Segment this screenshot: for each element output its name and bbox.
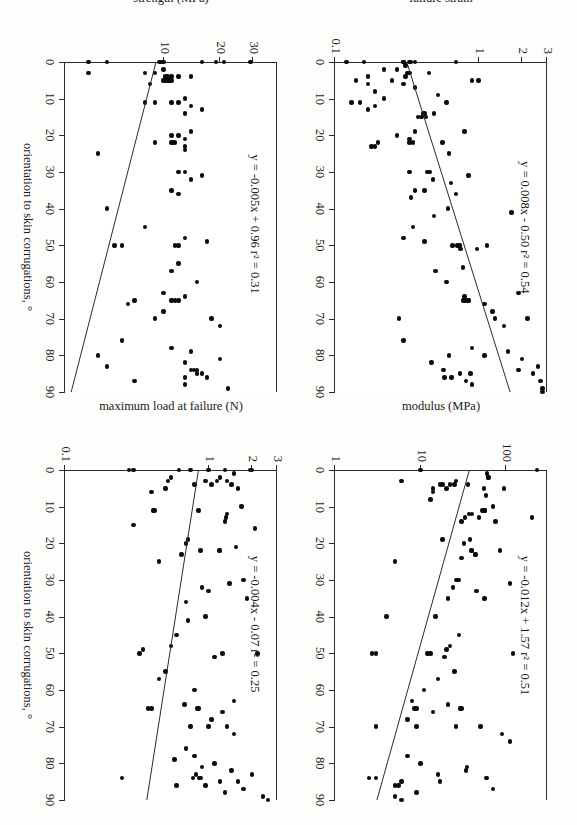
y-tick [64,465,65,470]
data-point [349,100,353,104]
data-point [131,523,135,527]
data-point [405,717,409,721]
data-point [169,269,173,273]
data-point [384,614,388,618]
data-point [447,353,451,357]
x-tick [329,392,334,393]
data-point [414,724,418,728]
data-point [195,280,199,284]
data-point [413,188,417,192]
y-tick [505,465,506,470]
x-tick-label: 40 [312,189,327,229]
data-point [458,706,462,710]
y-tick [276,465,277,470]
data-point [205,375,209,379]
x-axis-line [64,470,65,801]
data-point [120,243,124,247]
x-tick-label: 0 [42,450,57,490]
data-point [399,798,403,802]
data-point [161,309,165,313]
data-point [530,515,534,519]
data-point [473,552,477,556]
data-point [217,548,221,552]
figure-page: 01020304050607080900.1123y = 0.008x - 0.… [0,0,577,825]
data-point [183,375,187,379]
data-point [163,669,167,673]
data-point [366,74,370,78]
data-point [508,739,512,743]
data-point [452,669,456,673]
x-tick-label: 60 [312,670,327,710]
data-point [451,585,455,589]
data-point [153,100,157,104]
data-point [161,78,165,82]
x-axis-title: orientation to skin corrugations, ° [20,540,35,730]
y-axis-title: failure strain [409,0,473,6]
data-point [393,783,397,787]
x-tick [59,319,64,320]
data-point [220,651,224,655]
x-tick [329,800,334,801]
y-tick-label: 0.1 [58,418,73,462]
data-point [470,382,474,386]
y-tick-label: 1 [202,418,217,462]
data-point [491,504,495,508]
data-point [450,243,454,247]
x-axis-line [64,62,65,393]
data-point [227,581,231,585]
data-point [189,129,193,133]
data-point [266,798,270,802]
data-point [462,541,466,545]
data-point [480,508,484,512]
data-point [407,170,411,174]
data-point [182,702,186,706]
data-point [161,291,165,295]
x-tick [59,763,64,764]
data-point [206,589,210,593]
data-point [189,349,193,353]
data-point [132,379,136,383]
x-tick-label: 40 [312,597,327,637]
x-tick-label: 30 [42,152,57,192]
x-tick [59,543,64,544]
x-tick [59,617,64,618]
data-point [218,779,222,783]
data-point [205,239,209,243]
x-tick [329,135,334,136]
regression-annotation: y = -0.012x + 1.57 r² = 0.51 [517,556,532,695]
data-point [183,294,187,298]
x-tick [329,543,334,544]
data-point [179,552,183,556]
data-point [470,78,474,82]
data-point [395,67,399,71]
x-tick-label: 60 [42,262,57,302]
data-point [425,651,429,655]
data-point [506,349,510,353]
data-point [209,482,213,486]
x-tick-label: 20 [42,115,57,155]
data-point [176,261,180,265]
y-tick-label: 30 [246,10,261,54]
x-axis-line [334,62,335,393]
x-tick [329,653,334,654]
data-point [163,486,167,490]
y-tick-label: 1 [472,10,487,54]
regression-annotation: y = -0.005x + 0.96 r² = 0.31 [247,154,262,293]
data-point [390,78,394,82]
x-tick-label: 10 [42,79,57,119]
x-tick-label: 20 [312,115,327,155]
plot-frame [65,470,277,800]
data-point [132,298,136,302]
data-point [151,508,155,512]
data-point [440,537,444,541]
data-point [105,206,109,210]
data-point [485,243,489,247]
data-point [253,526,257,530]
y-axis-title: maximum load at failure (N) [99,399,243,414]
data-point [174,633,178,637]
data-point [241,787,245,791]
y-tick-label: 10 [157,10,172,54]
data-point [444,486,448,490]
x-axis-title: orientation to skin corrugations, ° [20,132,35,322]
data-point [157,677,161,681]
